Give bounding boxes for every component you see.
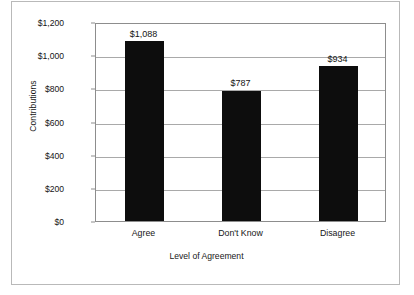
y-axis-tick-label: $0 (0, 217, 64, 227)
y-axis-tick-label: $200 (0, 184, 64, 194)
y-axis-tick-label: $1,000 (0, 51, 64, 61)
x-axis-tick-label: Disagree (278, 228, 398, 238)
bar (125, 41, 164, 221)
bar-value-label: $787 (196, 78, 286, 88)
y-axis-title: Contributions (28, 56, 38, 156)
y-axis-tick-label: $600 (0, 118, 64, 128)
bar (222, 91, 261, 222)
y-axis-tick-label: $400 (0, 151, 64, 161)
chart-figure: Contributions $0$200$400$600$800$1,000$1… (11, 1, 400, 285)
x-axis-title: Level of Agreement (12, 251, 401, 261)
bar (319, 66, 358, 221)
bar-value-label: $1,088 (99, 29, 189, 39)
plot-area (95, 23, 386, 222)
y-axis-tick-label: $800 (0, 84, 64, 94)
bar-value-label: $934 (293, 54, 383, 64)
y-axis-tick-label: $1,200 (0, 18, 64, 28)
